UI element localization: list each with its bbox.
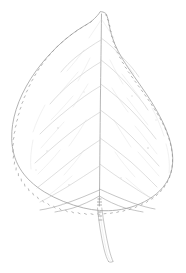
blemish-spot-10 [35, 169, 36, 170]
leaf-illustration [0, 0, 186, 273]
leaf-blade-outline [12, 12, 173, 211]
blemish-spot-6 [120, 177, 122, 179]
petiole-tip [109, 262, 114, 263]
blemish-spot-3 [68, 184, 70, 186]
blemish-spot-1 [57, 127, 59, 129]
leaf-image-canvas: broadly ovate to orbicular-cordate short… [0, 0, 186, 273]
leaf-petiole-group [98, 208, 114, 262]
blemish-spot-7 [83, 91, 84, 92]
blemish-spot-9 [155, 119, 156, 120]
blemish-spot-8 [62, 203, 64, 205]
petiole-right-edge [102, 208, 113, 262]
blemish-spot-5 [147, 147, 149, 149]
blemish-spot-4 [131, 95, 133, 97]
leaf-blade-group [12, 12, 173, 215]
blemish-spot-2 [46, 150, 48, 152]
